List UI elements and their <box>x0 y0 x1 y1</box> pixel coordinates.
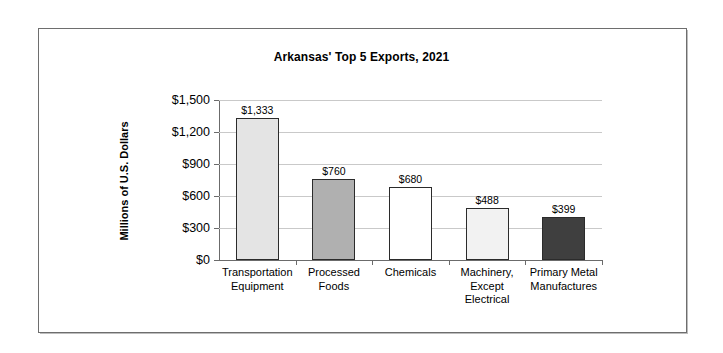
x-axis-tick <box>602 260 603 265</box>
y-axis-tick-label: $0 <box>196 253 210 267</box>
y-axis-tick <box>214 260 219 261</box>
bar: $1,333 <box>236 118 279 260</box>
y-axis-tick <box>214 228 219 229</box>
y-axis-tick <box>214 100 219 101</box>
bar-value-label: $680 <box>399 173 422 185</box>
x-axis-tick <box>372 260 373 265</box>
y-axis-tick <box>214 196 219 197</box>
y-axis-tick <box>214 164 219 165</box>
y-axis-tick-label: $600 <box>182 189 210 203</box>
y-axis-tick <box>214 132 219 133</box>
x-axis-tick <box>525 260 526 265</box>
y-axis-title: Millions of U.S. Dollars <box>118 96 134 266</box>
bar: $399 <box>542 217 585 260</box>
bar-value-label: $1,333 <box>241 104 273 116</box>
x-axis-category-label: Machinery, Except Electrical <box>449 266 526 307</box>
x-axis-tick <box>449 260 450 265</box>
bar: $760 <box>312 179 355 260</box>
bar: $680 <box>389 187 432 260</box>
x-axis-line <box>219 260 603 261</box>
plot-area: $0$300$600$900$1,200$1,500$1,333$760$680… <box>219 100 602 260</box>
bar-value-label: $760 <box>322 165 345 177</box>
y-axis-tick-label: $1,200 <box>172 125 210 139</box>
x-axis-category-label: Transportation Equipment <box>219 266 296 293</box>
bar-value-label: $399 <box>552 203 575 215</box>
chart-title: Arkansas' Top 5 Exports, 2021 <box>0 50 723 64</box>
y-axis-tick-label: $900 <box>182 157 210 171</box>
gridline <box>219 100 602 101</box>
x-axis-category-label: Chemicals <box>372 266 449 280</box>
x-axis-tick <box>296 260 297 265</box>
x-axis-category-label: Processed Foods <box>296 266 373 293</box>
y-axis-tick-label: $1,500 <box>172 93 210 107</box>
x-axis-category-label: Primary Metal Manufactures <box>525 266 602 293</box>
y-axis-tick-label: $300 <box>182 221 210 235</box>
bar-value-label: $488 <box>475 194 498 206</box>
bar: $488 <box>466 208 509 260</box>
chart-figure: Arkansas' Top 5 Exports, 2021 Millions o… <box>0 0 723 353</box>
